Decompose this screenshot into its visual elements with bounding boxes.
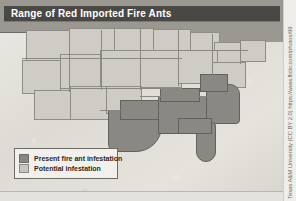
state-region-southern-california xyxy=(34,90,72,120)
infestation-region-arkansas-tennessee xyxy=(160,88,200,102)
state-region-central-plains xyxy=(140,50,182,88)
map-title-bar: Range of Red Imported Fire Ants xyxy=(4,6,280,21)
legend-label-potential: Potential infestation xyxy=(34,165,101,173)
state-region-southwest xyxy=(70,86,110,120)
state-region-new-england xyxy=(240,40,266,62)
infestation-region-florida-panhandle xyxy=(178,118,212,134)
state-region-central-rockies xyxy=(100,50,142,90)
state-region-california-north xyxy=(22,60,62,94)
fire-ant-range-map-figure: Range of Red Imported Fire Ants Present … xyxy=(0,0,296,201)
attribution-credit: Texas A&M University (CC BY 2.0) https:/… xyxy=(285,2,295,199)
map-legend: Present fire ant infestation Potential i… xyxy=(14,148,118,179)
infestation-region-virginia xyxy=(200,74,228,92)
legend-label-present: Present fire ant infestation xyxy=(34,155,122,163)
potential-infestation-swatch xyxy=(19,164,29,173)
bottom-border-strip xyxy=(0,191,284,201)
legend-item-potential: Potential infestation xyxy=(19,164,112,173)
page-title: Range of Red Imported Fire Ants xyxy=(4,9,171,19)
attribution-text: Texas A&M University (CC BY 2.0) https:/… xyxy=(287,27,293,199)
legend-item-present: Present fire ant infestation xyxy=(19,154,112,163)
present-infestation-swatch xyxy=(19,154,29,163)
